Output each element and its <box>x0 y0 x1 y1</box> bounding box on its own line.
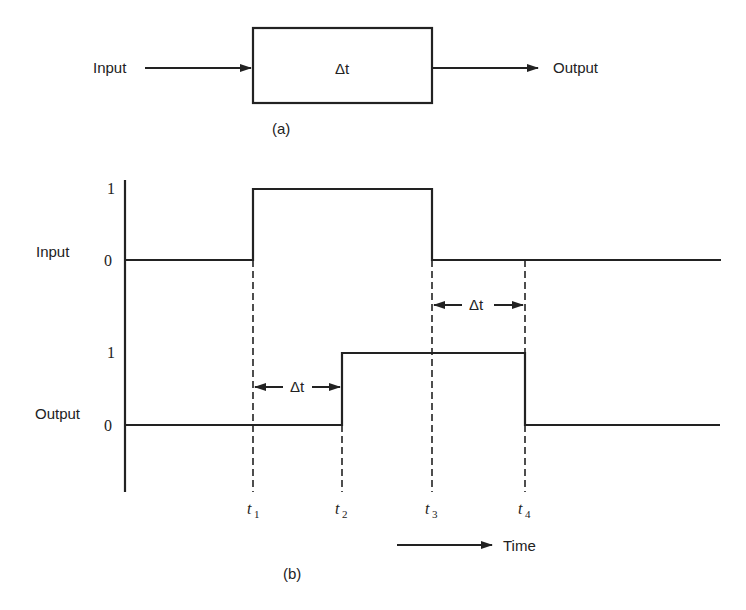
delay-annotation-lower: Δt <box>255 378 340 395</box>
svg-text:1: 1 <box>254 508 260 520</box>
svg-text:t: t <box>518 500 523 517</box>
input-level-1: 1 <box>107 180 115 197</box>
output-waveform <box>126 353 720 425</box>
svg-text:3: 3 <box>432 508 438 520</box>
delay-annotation-upper: Δt <box>434 296 523 313</box>
svg-text:t: t <box>335 500 340 517</box>
time-tick-t2: t 2 <box>335 500 348 520</box>
block-input-label: Input <box>93 59 127 76</box>
delay-label-lower: Δt <box>290 378 305 395</box>
output-level-0: 0 <box>104 417 112 434</box>
input-level-0: 0 <box>104 252 112 269</box>
output-row-label: Output <box>35 405 81 422</box>
input-waveform <box>126 189 721 260</box>
block-diagram: Input Δt Output (a) <box>93 28 599 137</box>
timing-chart: Input 1 0 Output 1 0 Δt Δt t <box>35 180 721 582</box>
svg-text:2: 2 <box>342 508 348 520</box>
timing-diagram: Input Δt Output (a) Input 1 0 Output 1 0 <box>0 0 746 610</box>
time-tick-t4: t 4 <box>518 500 531 520</box>
time-tick-t1: t 1 <box>247 500 260 520</box>
input-row-label: Input <box>36 243 70 260</box>
svg-text:t: t <box>247 500 252 517</box>
time-axis-label: Time <box>503 537 536 554</box>
caption-b: (b) <box>283 565 301 582</box>
delay-block-label: Δt <box>335 60 350 77</box>
delay-label-upper: Δt <box>469 296 484 313</box>
svg-text:t: t <box>425 500 430 517</box>
time-tick-t3: t 3 <box>425 500 438 520</box>
output-level-1: 1 <box>107 344 115 361</box>
svg-text:4: 4 <box>525 508 531 520</box>
caption-a: (a) <box>272 120 290 137</box>
block-output-label: Output <box>553 59 599 76</box>
